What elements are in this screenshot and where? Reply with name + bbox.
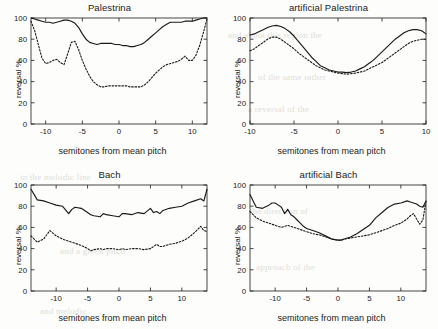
svg-text:100: 100	[233, 14, 247, 23]
svg-text:20: 20	[18, 266, 27, 275]
svg-text:0: 0	[117, 294, 122, 303]
subplot-artificial-palestrina: artificial Palestrina reversal % semiton…	[219, 0, 438, 165]
svg-text:20: 20	[237, 99, 246, 108]
figure-container: and about this region the of the same ra…	[0, 0, 438, 329]
x-axis-label: semitones from mean pitch	[10, 313, 215, 323]
svg-text:40: 40	[237, 77, 246, 86]
svg-text:80: 80	[237, 202, 246, 211]
series-line-solid	[250, 25, 426, 72]
svg-text:0: 0	[23, 120, 28, 129]
x-axis-label: semitones from mean pitch	[229, 313, 434, 323]
svg-text:0: 0	[117, 127, 122, 136]
x-axis-label: semitones from mean pitch	[229, 146, 434, 156]
series-line-dashed	[250, 37, 426, 74]
svg-text:40: 40	[18, 77, 27, 86]
svg-text:80: 80	[18, 202, 27, 211]
svg-text:10: 10	[178, 294, 187, 303]
plot-axes: 020406080100-10-50510	[0, 0, 219, 145]
svg-text:40: 40	[18, 244, 27, 253]
svg-text:60: 60	[237, 56, 246, 65]
svg-text:10: 10	[188, 127, 197, 136]
svg-text:5: 5	[153, 127, 158, 136]
subplot-artificial-bach: artificial Bach reversal % semitones fro…	[219, 165, 438, 329]
subplot-bach: Bach reversal % semitones from mean pitc…	[0, 165, 219, 329]
series-line-solid	[31, 189, 207, 217]
svg-text:5: 5	[380, 127, 385, 136]
svg-text:60: 60	[18, 223, 27, 232]
plot-axes: 020406080100-10-50510	[0, 165, 219, 313]
svg-text:20: 20	[237, 266, 246, 275]
series-line-solid	[250, 195, 426, 241]
svg-text:-5: -5	[79, 127, 87, 136]
series-line-dashed	[250, 201, 426, 240]
svg-text:5: 5	[148, 294, 153, 303]
plot-axes: 020406080100-10-50510	[219, 0, 438, 145]
svg-text:-10: -10	[40, 127, 52, 136]
svg-text:80: 80	[18, 35, 27, 44]
svg-text:100: 100	[14, 14, 28, 23]
svg-text:-5: -5	[291, 127, 299, 136]
series-line-dashed	[31, 226, 207, 250]
series-line-solid	[31, 18, 207, 47]
svg-text:-5: -5	[84, 294, 92, 303]
svg-text:100: 100	[233, 181, 247, 190]
svg-text:10: 10	[422, 127, 431, 136]
svg-text:-10: -10	[270, 294, 282, 303]
svg-text:10: 10	[397, 294, 406, 303]
svg-text:80: 80	[237, 35, 246, 44]
svg-text:-10: -10	[51, 294, 63, 303]
svg-text:-10: -10	[244, 127, 256, 136]
svg-text:5: 5	[367, 294, 372, 303]
svg-text:0: 0	[336, 294, 341, 303]
svg-text:100: 100	[14, 181, 28, 190]
svg-text:60: 60	[237, 223, 246, 232]
svg-text:20: 20	[18, 99, 27, 108]
svg-text:-5: -5	[303, 294, 311, 303]
x-axis-label: semitones from mean pitch	[10, 146, 215, 156]
series-line-dashed	[31, 19, 207, 87]
svg-text:60: 60	[18, 56, 27, 65]
svg-text:0: 0	[23, 287, 28, 296]
svg-text:0: 0	[242, 287, 247, 296]
svg-text:40: 40	[237, 244, 246, 253]
svg-text:0: 0	[336, 127, 341, 136]
plot-axes: 020406080100-10-50510	[219, 165, 438, 313]
subplot-palestrina: Palestrina reversal % semitones from mea…	[0, 0, 219, 165]
